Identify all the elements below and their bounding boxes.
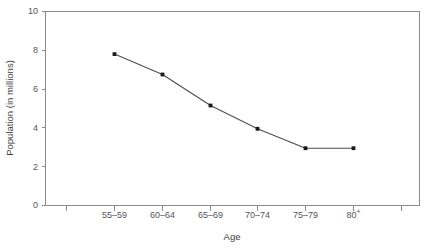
x-tick-label-75-79: 75–79 bbox=[293, 210, 318, 220]
x-tick-label-80plus: 80+ bbox=[346, 208, 360, 220]
y-tick-label-8: 8 bbox=[33, 45, 38, 55]
x-tick-label-60-64: 60–64 bbox=[150, 210, 175, 220]
y-axis-ticks bbox=[42, 12, 46, 206]
y-tick-label-10: 10 bbox=[28, 6, 38, 16]
line-chart: 10 8 6 4 2 0 55–59 60–64 65–69 70–74 75–… bbox=[0, 0, 431, 248]
x-tick-label-55-59: 55–59 bbox=[102, 210, 127, 220]
x-tick-label-70-74: 70–74 bbox=[245, 210, 270, 220]
chart-canvas: 10 8 6 4 2 0 55–59 60–64 65–69 70–74 75–… bbox=[0, 0, 431, 248]
data-point-60-64 bbox=[161, 73, 165, 77]
x-axis-tick-labels: 55–59 60–64 65–69 70–74 75–79 80+ bbox=[102, 208, 361, 220]
x-tick-label-80plus-base: 80 bbox=[346, 210, 356, 220]
plot-border bbox=[46, 12, 420, 206]
y-tick-label-2: 2 bbox=[33, 162, 38, 172]
y-axis-tick-labels: 10 8 6 4 2 0 bbox=[28, 6, 38, 210]
y-axis-title: Population (in millions) bbox=[4, 60, 15, 156]
data-point-65-69 bbox=[209, 104, 213, 108]
y-tick-label-4: 4 bbox=[33, 123, 38, 133]
x-tick-label-80plus-sup: + bbox=[356, 208, 360, 215]
data-point-55-59 bbox=[113, 52, 117, 56]
plot-frame bbox=[46, 12, 420, 206]
x-tick-label-65-69: 65–69 bbox=[198, 210, 223, 220]
x-axis-title: Age bbox=[224, 231, 241, 242]
y-tick-label-6: 6 bbox=[33, 84, 38, 94]
y-tick-label-0: 0 bbox=[33, 200, 38, 210]
series-line-population bbox=[115, 54, 354, 148]
data-series-population bbox=[113, 52, 356, 150]
data-point-75-79 bbox=[304, 146, 308, 150]
data-point-70-74 bbox=[256, 127, 260, 131]
data-point-80plus bbox=[352, 146, 356, 150]
